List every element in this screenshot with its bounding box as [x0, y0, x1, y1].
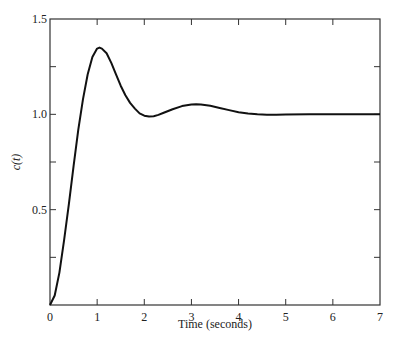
step-response-chart: 012345670.51.01.5 Time (seconds) c(t)	[0, 0, 397, 348]
tick-label: 0.5	[32, 203, 47, 217]
plot-frame	[50, 19, 380, 305]
y-axis-title: c(t)	[9, 154, 23, 171]
tick-label: 1.5	[32, 12, 47, 26]
axis-ticks	[50, 19, 380, 305]
tick-label: 0	[47, 310, 53, 324]
tick-label: 1	[94, 310, 100, 324]
tick-label: 7	[377, 310, 383, 324]
x-axis-title: Time (seconds)	[178, 317, 252, 331]
tick-label: 6	[330, 310, 336, 324]
tick-labels: 012345670.51.01.5	[32, 12, 383, 324]
tick-label: 2	[141, 310, 147, 324]
tick-label: 5	[283, 310, 289, 324]
response-curve	[50, 48, 380, 305]
tick-label: 1.0	[32, 107, 47, 121]
